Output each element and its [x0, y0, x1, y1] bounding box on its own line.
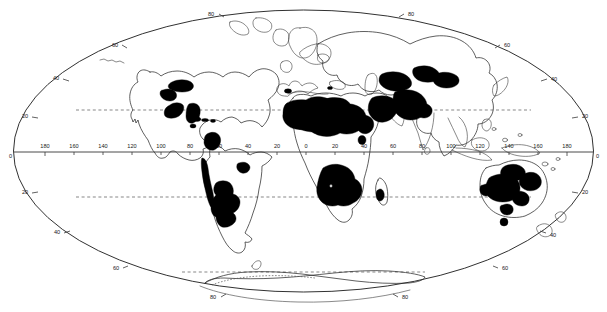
lat-label-left-40s: 40: [54, 229, 60, 235]
lon-label-4: 100: [156, 143, 165, 149]
arid-region-australia-west-coast: [480, 184, 492, 196]
lon-label-10: 20: [332, 143, 338, 149]
lon-label-7: 40: [245, 143, 251, 149]
arid-region-lesser-antilles-dry: [210, 120, 215, 123]
arid-region-namib-inner-dot: [330, 185, 333, 188]
lon-label-3: 120: [127, 143, 136, 149]
lon-label-18: 180: [562, 143, 571, 149]
lat-label-right-40: 40: [551, 76, 557, 82]
lon-label-9: 0: [304, 143, 307, 149]
world-map-figure: 180 160 140 120 100 80 60 40 20 0 20 40 …: [0, 0, 607, 312]
lon-label-15: 120: [475, 143, 484, 149]
arid-region-kenya-dry: [358, 136, 366, 145]
arid-region-tasmania-dry: [500, 218, 508, 226]
lon-label-12: 60: [390, 143, 396, 149]
lat-label-left-80: 80: [208, 11, 214, 17]
lat-label-right-60: 60: [504, 42, 510, 48]
arid-region-iberia-dry: [284, 89, 291, 93]
lon-label-2: 140: [98, 143, 107, 149]
lat-label-left-20: 20: [22, 113, 28, 119]
lat-label-left-20s: 20: [22, 189, 28, 195]
lon-label-1: 160: [69, 143, 78, 149]
lat-label-left-60s: 60: [113, 265, 119, 271]
equator-zero-label-right: 0: [596, 153, 599, 159]
lat-label-right-80: 80: [408, 11, 414, 17]
lon-label-16: 140: [504, 143, 513, 149]
lon-label-0: 180: [40, 143, 49, 149]
lat-label-right-60s: 60: [502, 265, 508, 271]
lat-label-right-80s: 80: [402, 294, 408, 300]
lon-label-8: 20: [274, 143, 280, 149]
world-map-svg: 180 160 140 120 100 80 60 40 20 0 20 40 …: [0, 0, 607, 312]
arid-region-gobi: [433, 72, 459, 88]
lat-label-right-20s: 20: [582, 189, 588, 195]
arid-region-cuba-dry: [190, 124, 196, 128]
arid-region-hispaniola-dry: [202, 118, 209, 121]
lat-label-left-80s: 80: [210, 294, 216, 300]
projection-outline: [14, 10, 594, 292]
lat-label-right-20: 20: [582, 113, 588, 119]
lat-label-left-60: 60: [112, 42, 118, 48]
equator-zero-label-left: 0: [9, 153, 12, 159]
arid-region-madagascar-dry: [376, 189, 384, 201]
lat-label-left-40: 40: [53, 75, 59, 81]
arid-region-australia-gibson: [519, 172, 541, 190]
lon-label-5: 80: [187, 143, 193, 149]
arid-region-anatolia-dry: [327, 86, 332, 89]
